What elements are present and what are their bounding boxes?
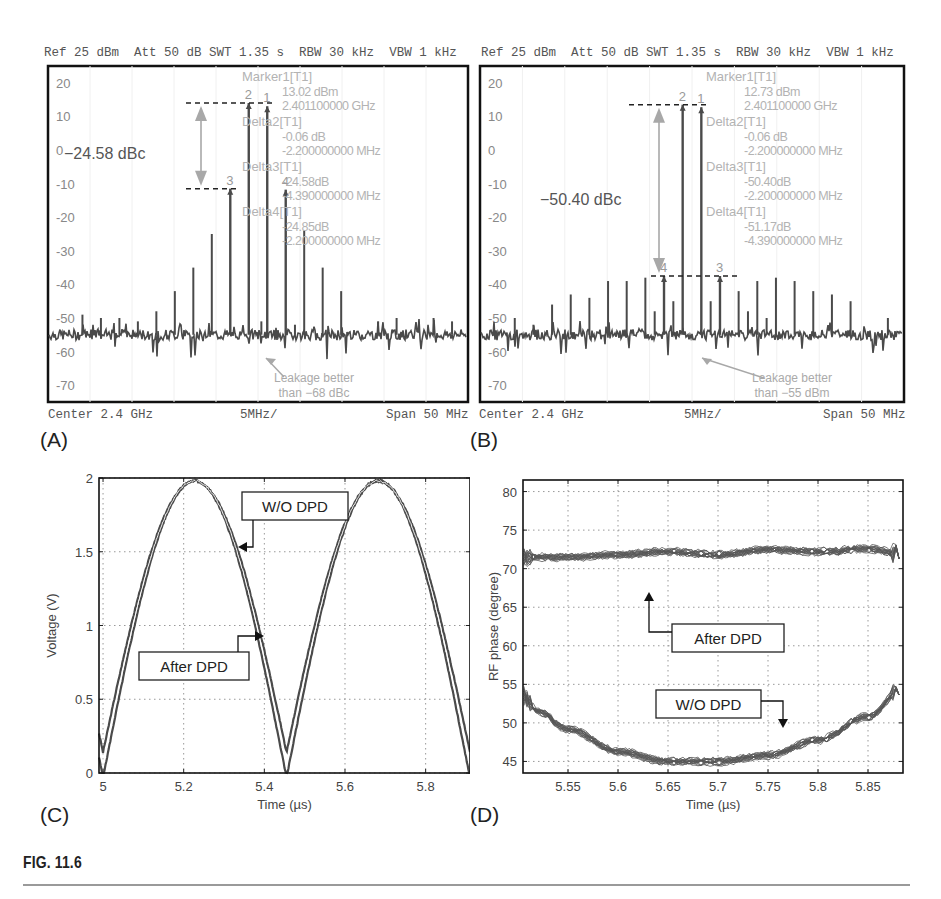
svg-text:65: 65 [503,600,517,615]
svg-text:-30: -30 [56,244,75,259]
svg-text:5.85: 5.85 [855,779,880,794]
caption-rule [23,884,910,886]
marker-number: 2 [245,87,252,102]
footer-center: Center 2.4 GHz [479,408,584,422]
header-vbw: VBW 1 kHz [389,46,457,60]
svg-text:0.5: 0.5 [75,692,93,707]
series-wo-dpd [99,480,470,753]
svg-text:5.2: 5.2 [175,779,193,794]
header-swt: SWT 1.35 s [646,46,721,60]
leakage-text-2: than −68 dBc [278,386,349,400]
svg-text:Marker1[T1]: Marker1[T1] [242,69,312,84]
svg-text:5.4: 5.4 [255,779,273,794]
dbc-label: −50.40 dBc [540,191,621,208]
header-ref: Ref 25 dBm [44,46,119,60]
header-vbw: VBW 1 kHz [826,46,894,60]
svg-text:-0.06 dB: -0.06 dB [744,130,787,144]
svg-text:-24.58dB: -24.58dB [282,175,329,189]
svg-text:0: 0 [488,143,495,158]
marker-number: 3 [716,260,723,275]
svg-text:-20: -20 [56,210,75,225]
svg-text:2.401100000 GHz: 2.401100000 GHz [282,99,375,113]
svg-text:After DPD: After DPD [160,658,228,675]
y-axis-label: RF phase (degree) [486,572,501,681]
svg-text:-50: -50 [56,311,75,326]
svg-text:-30: -30 [488,244,507,259]
svg-text:80: 80 [503,485,517,500]
svg-text:-24.85dB: -24.85dB [282,220,329,234]
x-tick-labels: 55.25.45.65.8 [99,478,434,794]
svg-text:-4.390000000 MHz: -4.390000000 MHz [282,189,381,203]
svg-text:Delta2[T1]: Delta2[T1] [242,114,302,129]
label-after-dpd: After DPD [672,624,784,652]
svg-text:Delta4[T1]: Delta4[T1] [242,204,302,219]
svg-text:-70: -70 [56,378,75,393]
svg-text:5: 5 [99,779,106,794]
svg-text:50: 50 [503,716,517,731]
svg-text:Delta2[T1]: Delta2[T1] [706,114,766,129]
panel-a-header: Ref 25 dBm Att 50 dB SWT 1.35 s RBW 30 k… [44,46,457,60]
marker-number: 3 [226,173,233,188]
svg-text:5.75: 5.75 [755,779,780,794]
svg-text:10: 10 [56,109,70,124]
svg-text:60: 60 [503,639,517,654]
svg-text:-40: -40 [488,277,507,292]
footer-span: Span 50 MHz [386,408,469,422]
footer-center: Center 2.4 GHz [48,408,153,422]
svg-text:-60: -60 [488,345,507,360]
svg-text:-50.40dB: -50.40dB [744,175,791,189]
svg-text:13.02 dBm: 13.02 dBm [282,85,338,99]
svg-text:45: 45 [503,754,517,769]
svg-text:5.7: 5.7 [709,779,727,794]
panel-label-c: (C) [40,803,69,827]
phase-traces [524,543,899,766]
y-axis-label: Voltage (V) [44,593,59,657]
spectrum-plot-a: 20100-10-20-30-40-50-60-702134−24.58 dBc… [44,64,472,404]
svg-text:75: 75 [503,523,517,538]
svg-text:W/O DPD: W/O DPD [676,696,742,713]
marker-number: 2 [679,89,686,104]
header-swt: SWT 1.35 s [209,46,284,60]
x-axis-label: Time (µs) [257,797,312,812]
label-wo-dpd: W/O DPD [242,492,348,520]
grid [99,478,470,773]
svg-text:-10: -10 [488,177,507,192]
svg-text:-50: -50 [488,311,507,326]
svg-text:-0.06 dB: -0.06 dB [282,130,325,144]
svg-text:Marker1[T1]: Marker1[T1] [706,69,776,84]
leakage-text-2: than −55 dBm [754,386,829,400]
svg-text:Delta3[T1]: Delta3[T1] [706,159,766,174]
dbc-label: −24.58 dBc [64,145,145,162]
svg-text:-2.200000000 MHz: -2.200000000 MHz [744,189,843,203]
svg-text:20: 20 [56,76,70,91]
leakage-text-1: Leakage better [274,371,354,385]
svg-text:1.5: 1.5 [75,545,93,560]
svg-text:-20: -20 [488,210,507,225]
label-after-dpd: After DPD [139,652,249,680]
panel-label-d: (D) [470,803,499,827]
svg-text:5.55: 5.55 [555,779,580,794]
panel-b-header: Ref 25 dBm Att 50 dB SWT 1.35 s RBW 30 k… [481,46,894,60]
svg-text:10: 10 [488,109,502,124]
svg-text:-70: -70 [488,378,507,393]
svg-text:5.6: 5.6 [609,779,627,794]
panel-label-a: (A) [40,428,68,452]
svg-text:2: 2 [86,471,93,486]
svg-text:-10: -10 [56,177,75,192]
svg-text:-2.200000000 MHz: -2.200000000 MHz [744,144,843,158]
svg-text:-51.17dB: -51.17dB [744,220,791,234]
footer-div: 5MHz/ [684,408,722,422]
svg-text:5.6: 5.6 [336,779,354,794]
footer-span: Span 50 MHz [823,408,906,422]
svg-text:0: 0 [56,143,63,158]
svg-text:5.8: 5.8 [417,779,435,794]
header-rbw: RBW 30 kHz [299,46,374,60]
svg-text:-2.200000000 MHz: -2.200000000 MHz [282,144,381,158]
header-att: Att 50 dB [571,46,639,60]
svg-text:After DPD: After DPD [694,630,762,647]
spectrum-plot-b: 20100-10-20-30-40-50-60-702143−50.40 dBc… [476,64,908,404]
svg-text:2.401100000 GHz: 2.401100000 GHz [744,99,837,113]
header-att: Att 50 dB [134,46,202,60]
header-ref: Ref 25 dBm [481,46,556,60]
phase-plot-d: 5.555.65.655.75.755.85.85455055606570758… [478,470,941,820]
